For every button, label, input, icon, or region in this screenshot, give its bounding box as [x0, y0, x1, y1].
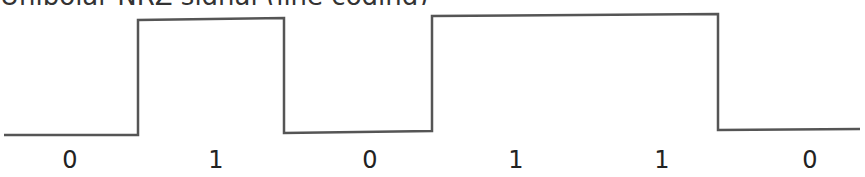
bit-label: 0 [55, 146, 85, 174]
bit-label: 0 [795, 146, 825, 174]
bit-label: 1 [201, 146, 231, 174]
bit-label: 0 [355, 146, 385, 174]
digital-signal-waveform [0, 0, 865, 177]
signal-trace [4, 14, 860, 135]
bit-label: 1 [647, 146, 677, 174]
bit-label: 1 [501, 146, 531, 174]
